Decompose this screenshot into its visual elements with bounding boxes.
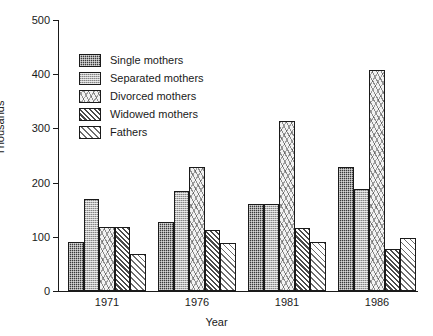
y-tick-mark [53,237,58,238]
x-tick-label-1981: 1981 [275,296,299,308]
bar-widowed-mothers [115,227,131,291]
x-axis-line [58,291,418,292]
x-tick-label-1976: 1976 [185,296,209,308]
bar-single-mothers [338,167,354,291]
legend-swatch-icon [79,72,101,85]
bar-separated-mothers [174,191,190,291]
legend-label: Fathers [110,127,147,138]
legend-item: Single mothers [79,52,204,69]
bar-single-mothers [248,204,264,291]
bar-fathers [220,243,236,291]
bar-separated-mothers [264,204,280,291]
bar-single-mothers [68,242,84,291]
bar-fathers [400,238,416,291]
x-axis-title: Year [0,316,433,328]
legend-swatch-icon [79,90,101,103]
y-tick-label: 200 [32,177,50,188]
bar-fathers [130,254,146,291]
bar-chart: Thousands Year 0100200300400500 19711976… [0,0,433,336]
bar-divorced-mothers [279,121,295,291]
legend-item: Separated mothers [79,70,204,87]
bar-divorced-mothers [99,227,115,291]
y-tick-label: 300 [32,123,50,134]
legend-label: Widowed mothers [110,109,198,120]
legend-label: Single mothers [110,55,183,66]
legend-swatch-icon [79,108,101,121]
bar-fathers [310,242,326,291]
legend-item: Widowed mothers [79,106,204,123]
legend: Single mothersSeparated mothersDivorced … [79,52,204,142]
bar-separated-mothers [84,199,100,291]
x-tick-label-1971: 1971 [95,296,119,308]
bar-divorced-mothers [369,70,385,291]
legend-item: Fathers [79,124,204,141]
legend-label: Separated mothers [110,73,204,84]
y-tick-label: 500 [32,15,50,26]
bar-single-mothers [158,222,174,291]
legend-swatch-icon [79,54,101,67]
y-tick-mark [53,128,58,129]
legend-item: Divorced mothers [79,88,204,105]
bar-widowed-mothers [295,228,311,291]
y-axis-title: Thousands [0,101,6,155]
legend-swatch-icon [79,126,101,139]
y-tick-mark [53,291,58,292]
y-tick-mark [53,20,58,21]
y-tick-mark [53,74,58,75]
bar-divorced-mothers [189,167,205,291]
y-tick-label: 100 [32,231,50,242]
y-tick-label: 0 [44,286,50,297]
legend-label: Divorced mothers [110,91,196,102]
y-tick-mark [53,183,58,184]
y-tick-label: 400 [32,69,50,80]
bar-widowed-mothers [205,230,221,291]
bar-separated-mothers [354,189,370,291]
x-tick-label-1986: 1986 [365,296,389,308]
bar-widowed-mothers [385,249,401,291]
